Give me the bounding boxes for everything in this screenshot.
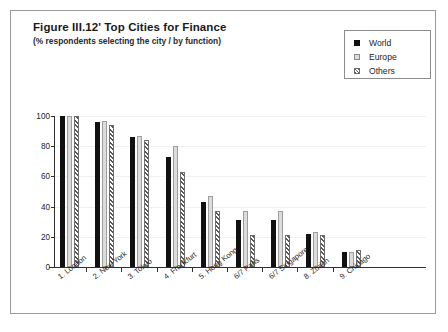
bar xyxy=(74,116,79,267)
bar xyxy=(166,157,171,267)
y-axis-tick-mark xyxy=(51,237,54,238)
figure-frame: Figure III.12' Top Cities for Finance (%… xyxy=(10,10,436,314)
y-axis-tick-label: 60 xyxy=(41,172,50,181)
x-axis-separator-tick xyxy=(157,267,158,272)
bar xyxy=(67,116,72,267)
bar xyxy=(95,122,100,267)
hatched-square-icon xyxy=(354,68,360,74)
legend-item-world: World xyxy=(354,36,430,49)
chart-title: Figure III.12' Top Cities for Finance xyxy=(33,21,313,33)
y-axis-tick-label: 0 xyxy=(45,263,50,272)
legend-label-world: World xyxy=(369,38,391,48)
x-axis-separator-tick xyxy=(333,267,334,272)
bar xyxy=(342,252,347,267)
bar xyxy=(180,172,185,267)
bar xyxy=(173,146,178,267)
x-axis-separator-tick xyxy=(121,267,122,272)
y-axis-tick-mark xyxy=(51,116,54,117)
plot-area: 020406080100 1. London2. New York3. Toky… xyxy=(54,106,426,267)
light-square-icon xyxy=(354,54,360,60)
bar xyxy=(144,140,149,267)
y-axis-tick-label: 80 xyxy=(41,142,50,151)
solid-square-icon xyxy=(354,40,360,46)
x-axis-separator-tick xyxy=(297,267,298,272)
chart-legend: World Europe Others xyxy=(344,30,431,79)
bar xyxy=(271,220,276,267)
x-axis-separator-tick xyxy=(262,267,263,272)
legend-item-europe: Europe xyxy=(354,50,430,63)
x-axis-separator-tick xyxy=(227,267,228,272)
gridline xyxy=(54,116,426,117)
y-axis-line xyxy=(54,116,55,267)
y-axis-tick-label: 20 xyxy=(41,232,50,241)
bar xyxy=(208,196,213,267)
bar xyxy=(201,202,206,267)
y-axis-tick-mark xyxy=(51,146,54,147)
x-axis-separator-tick xyxy=(86,267,87,272)
legend-label-europe: Europe xyxy=(369,52,397,62)
y-axis-tick-label: 100 xyxy=(36,112,50,121)
bar xyxy=(243,211,248,267)
y-axis-tick-mark xyxy=(51,207,54,208)
y-axis-tick-mark xyxy=(51,267,54,268)
x-axis-separator-tick xyxy=(192,267,193,272)
chart-subtitle: (% respondents selecting the city / by f… xyxy=(33,36,313,46)
bar xyxy=(236,220,241,267)
bar xyxy=(278,211,283,267)
title-block: Figure III.12' Top Cities for Finance (%… xyxy=(33,21,313,46)
bar xyxy=(109,125,114,267)
legend-label-others: Others xyxy=(369,66,395,76)
bar xyxy=(137,136,142,267)
legend-item-others: Others xyxy=(354,64,430,77)
bar xyxy=(102,121,107,267)
y-axis-tick-mark xyxy=(51,176,54,177)
y-axis-tick-label: 40 xyxy=(41,202,50,211)
bar xyxy=(130,137,135,267)
bar xyxy=(60,116,65,267)
